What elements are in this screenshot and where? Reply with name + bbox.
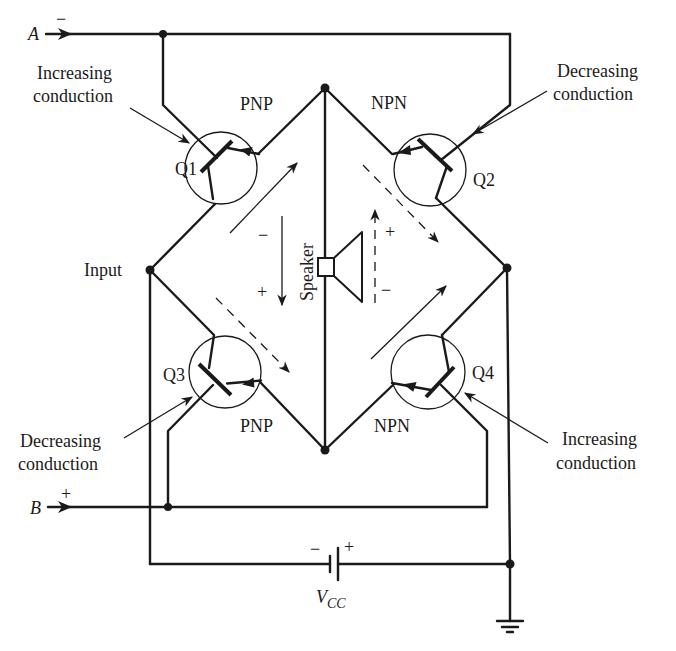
speaker-magnet bbox=[318, 258, 334, 276]
wire-input-q1 bbox=[150, 204, 215, 270]
q3-emitter bbox=[227, 381, 261, 384]
input-label: Input bbox=[84, 260, 122, 280]
terminal-a-label: A bbox=[27, 24, 40, 44]
q1-type: PNP bbox=[240, 94, 273, 114]
terminal-b: B + bbox=[30, 484, 487, 518]
annotation-q4-line1: Increasing bbox=[562, 429, 637, 449]
annotation-q3: Decreasing conduction bbox=[18, 397, 192, 474]
vcc-label: VCC bbox=[316, 587, 346, 611]
annotation-q2-line1: Decreasing bbox=[557, 61, 638, 81]
q1-label: Q1 bbox=[175, 159, 197, 179]
transistor-q4: Q4 NPN bbox=[374, 335, 494, 507]
transistor-q2: Q2 NPN bbox=[371, 93, 495, 206]
annotation-q1-line2: conduction bbox=[33, 86, 113, 106]
annotation-q1-line1: Increasing bbox=[37, 63, 112, 83]
annotation-q3-line2: conduction bbox=[18, 454, 98, 474]
q3-base-bar bbox=[199, 364, 231, 395]
push-pull-bridge-circuit: A − Q1 PNP Q2 bbox=[0, 0, 676, 651]
wire-q4-right bbox=[442, 268, 507, 335]
speaker-solid-bottom-polarity: + bbox=[257, 282, 267, 302]
current-arrow-dashed-lower-left bbox=[216, 298, 289, 372]
q2-collector bbox=[436, 166, 447, 198]
q4-type: NPN bbox=[374, 416, 410, 436]
terminal-b-label: B bbox=[30, 498, 41, 518]
speaker-cone-icon bbox=[334, 232, 362, 302]
annotation-q4: Increasing conduction bbox=[465, 393, 637, 473]
speaker-dashed-top-polarity: + bbox=[385, 222, 395, 242]
speaker-dashed-bottom-polarity: − bbox=[381, 280, 391, 300]
speaker-solid-top-polarity: − bbox=[258, 225, 268, 245]
terminal-b-polarity: + bbox=[61, 484, 71, 504]
annotation-q3-line1: Decreasing bbox=[20, 431, 101, 451]
q2-label: Q2 bbox=[473, 170, 495, 190]
terminal-a: A − bbox=[27, 9, 510, 44]
annotation-q4-line2: conduction bbox=[556, 453, 636, 473]
transistor-q1: Q1 PNP bbox=[175, 94, 273, 204]
q2-type: NPN bbox=[371, 93, 407, 113]
wire-input-q3 bbox=[150, 270, 213, 334]
q4-label: Q4 bbox=[472, 363, 494, 383]
annotation-q1-pointer bbox=[130, 108, 189, 143]
ground-icon bbox=[497, 564, 523, 632]
terminal-a-polarity: − bbox=[56, 9, 66, 29]
wire-right-rail bbox=[507, 268, 510, 564]
annotation-q4-pointer bbox=[465, 393, 548, 443]
q1-collector bbox=[208, 166, 213, 199]
junction-b bbox=[164, 503, 172, 511]
vcc-label-sub: CC bbox=[327, 596, 346, 611]
battery-pos-sign: + bbox=[344, 537, 354, 557]
speaker: Speaker bbox=[297, 232, 362, 302]
battery-neg-sign: − bbox=[310, 539, 320, 559]
annotation-q2-line2: conduction bbox=[553, 84, 633, 104]
q3-type: PNP bbox=[240, 416, 273, 436]
annotation-q1: Increasing conduction bbox=[33, 63, 189, 143]
current-arrow-dashed-upper-right bbox=[363, 165, 438, 242]
battery-vcc: − + VCC bbox=[310, 537, 354, 611]
wire-q2-right bbox=[436, 198, 507, 268]
q3-label: Q3 bbox=[163, 365, 185, 385]
q2-envelope bbox=[394, 134, 466, 206]
wire-q1-base bbox=[163, 34, 212, 153]
transistor-q3: Q3 PNP bbox=[163, 335, 273, 507]
annotation-q2: Decreasing conduction bbox=[473, 61, 638, 134]
q2-base-lead bbox=[435, 156, 441, 160]
speaker-label: Speaker bbox=[297, 243, 317, 301]
